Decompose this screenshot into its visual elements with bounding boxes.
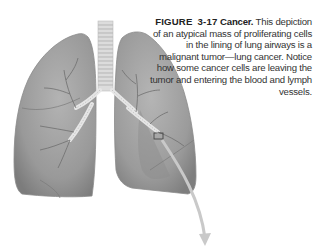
figure-title: Cancer. [220, 16, 253, 27]
figure-body: This depiction of an atypical mass of pr… [150, 16, 312, 97]
figure-number: 3-17 [198, 16, 218, 27]
figure-label: FIGURE [155, 16, 192, 27]
figure-caption: FIGURE 3-17 Cancer. This depiction of an… [150, 16, 312, 97]
left-lung [14, 34, 96, 197]
trachea [98, 21, 113, 91]
